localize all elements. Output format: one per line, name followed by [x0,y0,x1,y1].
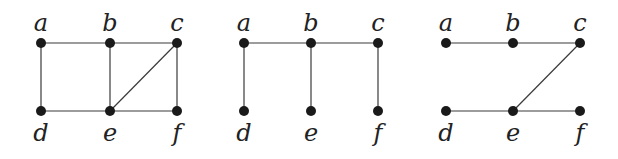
vertex-a [441,38,451,48]
graph-spanning-tree-2: abcdef [438,9,588,147]
vertex-f [172,106,182,116]
vertex-c [373,38,383,48]
vertex-label-d: d [438,119,453,147]
vertex-label-b: b [505,9,520,37]
vertex-label-a: a [237,9,251,37]
vertex-label-f: f [574,119,589,147]
vertex-label-c: c [170,9,183,37]
edge-c-e [513,43,580,111]
vertex-label-a: a [439,9,453,37]
vertex-label-f: f [171,119,186,147]
vertex-c [172,38,182,48]
vertex-label-c: c [371,9,384,37]
vertex-f [575,106,585,116]
vertex-e [508,106,518,116]
vertex-f [373,106,383,116]
vertex-e [105,106,115,116]
vertex-label-e: e [304,119,318,147]
vertex-label-e: e [103,119,117,147]
vertex-label-e: e [506,119,520,147]
vertex-d [441,106,451,116]
vertex-b [508,38,518,48]
vertex-b [105,38,115,48]
vertex-c [575,38,585,48]
vertex-e [306,106,316,116]
vertex-label-b: b [102,9,117,37]
vertex-label-f: f [372,119,387,147]
vertex-d [36,106,46,116]
vertex-a [239,38,249,48]
edge-e-c [110,43,177,111]
vertex-label-b: b [303,9,318,37]
vertex-label-d: d [236,119,251,147]
graph-spanning-tree-1: abcdef [236,9,386,147]
vertex-d [239,106,249,116]
vertex-label-d: d [33,119,48,147]
vertex-label-c: c [573,9,586,37]
graph-original: abcdef [33,9,185,147]
vertex-a [36,38,46,48]
vertex-label-a: a [34,9,48,37]
vertex-b [306,38,316,48]
graph-figure: abcdef abcdef abcdef [0,0,618,159]
